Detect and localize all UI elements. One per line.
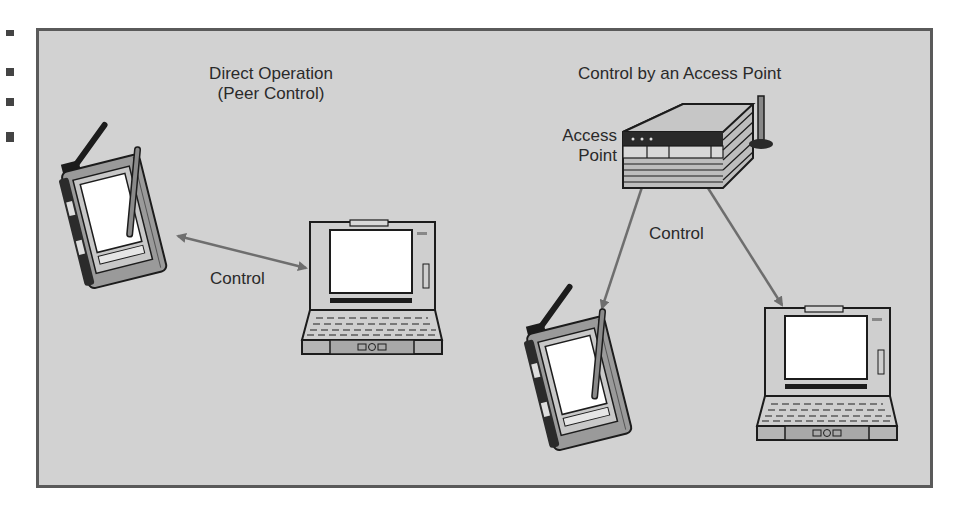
title-direct-operation-line2: (Peer Control) bbox=[196, 84, 346, 104]
title-access-point-control: Control by an Access Point bbox=[578, 64, 781, 84]
laptop-icon bbox=[757, 306, 897, 440]
control-label-peer: Control bbox=[210, 269, 265, 289]
access-point-label-line2: Point bbox=[547, 146, 617, 166]
diagram-canvas bbox=[0, 0, 962, 516]
access-point-label: Access Point bbox=[547, 126, 617, 166]
title-direct-operation-line1: Direct Operation bbox=[196, 64, 346, 84]
title-direct-operation: Direct Operation (Peer Control) bbox=[196, 64, 346, 104]
control-label-access-point: Control bbox=[649, 224, 704, 244]
pda-icon bbox=[48, 119, 167, 291]
access-point-icon bbox=[623, 96, 773, 188]
arrow-ap-to-laptop bbox=[701, 177, 782, 305]
laptop-icon bbox=[302, 220, 442, 354]
arrow-peer-control bbox=[178, 236, 306, 268]
access-point-label-line1: Access bbox=[547, 126, 617, 146]
arrow-ap-to-pda bbox=[602, 178, 645, 308]
pda-icon bbox=[513, 281, 632, 453]
